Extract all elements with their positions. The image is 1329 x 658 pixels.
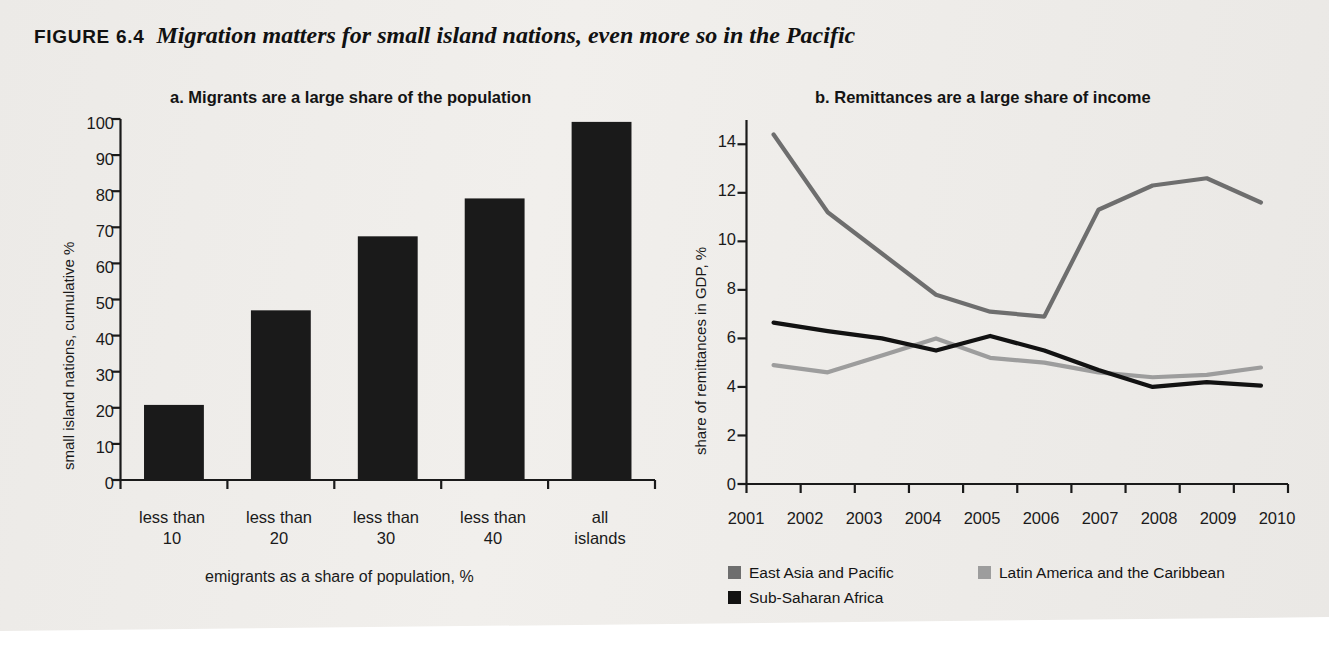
legend-item-latin-america-and-the-caribbean[interactable]: Latin America and the Caribbean bbox=[978, 564, 1225, 582]
panel-b-ytick-8: 8 bbox=[700, 279, 736, 298]
panel-a-xtick-0-line2: 10 bbox=[121, 528, 223, 548]
legend-item-sub-saharan-africa[interactable]: Sub-Saharan Africa bbox=[728, 589, 978, 607]
panel-b-ytick-12: 12 bbox=[700, 181, 736, 200]
legend-swatch-latin-america-and-the-caribbean bbox=[978, 566, 991, 579]
legend-swatch-east-asia-and-pacific bbox=[728, 566, 741, 579]
legend-swatch-sub-saharan-africa bbox=[728, 591, 741, 604]
panel-a-x-tickmarks bbox=[121, 480, 656, 489]
legend-row-2: Sub-Saharan Africa bbox=[728, 585, 1308, 610]
panel-a-ytick-0: 0 bbox=[72, 474, 114, 493]
panel-a-ytick-50: 50 bbox=[72, 294, 114, 313]
panel-a-ytick-40: 40 bbox=[72, 330, 114, 349]
panel-a-ytick-100: 100 bbox=[72, 114, 114, 133]
panel-a-bar-3[interactable] bbox=[465, 198, 525, 480]
figure-panel: FIGURE 6.4Migration matters for small is… bbox=[0, 0, 1329, 640]
panel-a-plot bbox=[110, 110, 670, 530]
panel-b-y-tickmarks bbox=[738, 144, 747, 484]
panel-a-title: a. Migrants are a large share of the pop… bbox=[170, 88, 531, 107]
panel-a-x-axis-label: emigrants as a share of population, % bbox=[205, 568, 474, 586]
panel-a-ytick-90: 90 bbox=[72, 150, 114, 169]
panel-a-y-tickmarks bbox=[112, 119, 121, 480]
legend-label-latin-america-and-the-caribbean: Latin America and the Caribbean bbox=[999, 564, 1225, 582]
panel-b-series-lines bbox=[774, 135, 1261, 387]
panel-b-ytick-2: 2 bbox=[700, 426, 736, 445]
panel-a-xtick-3-line2: 40 bbox=[442, 528, 544, 548]
panel-b-ytick-10: 10 bbox=[700, 230, 736, 249]
panel-a-bar-1[interactable] bbox=[251, 310, 311, 480]
panel-b-title: b. Remittances are a large share of inco… bbox=[815, 88, 1151, 107]
panel-a-xtick-4-line2: islands bbox=[549, 528, 651, 548]
panel-b-ytick-0: 0 bbox=[700, 475, 736, 494]
panel-a-bar-0[interactable] bbox=[144, 405, 204, 480]
figure-title-text: Migration matters for small island natio… bbox=[156, 22, 855, 48]
figure-caption: FIGURE 6.4Migration matters for small is… bbox=[34, 22, 1274, 56]
panel-a-ytick-20: 20 bbox=[72, 402, 114, 421]
panel-a-ytick-70: 70 bbox=[72, 222, 114, 241]
panel-b-line-east-asia-and-pacific[interactable] bbox=[774, 135, 1261, 317]
panel-a-ytick-30: 30 bbox=[72, 366, 114, 385]
panel-a-ytick-10: 10 bbox=[72, 438, 114, 457]
panel-a-bars bbox=[144, 122, 631, 480]
panel-a-bar-4[interactable] bbox=[572, 122, 632, 480]
legend-label-east-asia-and-pacific: East Asia and Pacific bbox=[749, 564, 894, 582]
figure-number: FIGURE 6.4 bbox=[34, 26, 144, 47]
legend-label-sub-saharan-africa: Sub-Saharan Africa bbox=[749, 589, 883, 607]
panel-b-legend: East Asia and Pacific Latin America and … bbox=[728, 560, 1308, 610]
panel-b-ytick-6: 6 bbox=[700, 328, 736, 347]
panel-b-x-tickmarks bbox=[747, 484, 1289, 493]
panel-a-ytick-60: 60 bbox=[72, 258, 114, 277]
panel-a-xtick-2-line2: 30 bbox=[335, 528, 437, 548]
legend-item-east-asia-and-pacific[interactable]: East Asia and Pacific bbox=[728, 564, 978, 582]
legend-row-1: East Asia and Pacific Latin America and … bbox=[728, 560, 1308, 585]
panel-a-ytick-80: 80 bbox=[72, 186, 114, 205]
panel-b-plot bbox=[735, 110, 1305, 530]
panel-b-ytick-14: 14 bbox=[700, 132, 736, 151]
panel-a-bar-2[interactable] bbox=[358, 236, 418, 480]
panel-b-ytick-4: 4 bbox=[700, 377, 736, 396]
panel-a-xtick-1-line2: 20 bbox=[228, 528, 330, 548]
